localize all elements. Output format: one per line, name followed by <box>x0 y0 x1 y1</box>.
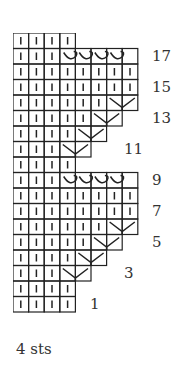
row-number-label: 17 <box>152 47 171 65</box>
row-number-label: 1 <box>90 295 100 313</box>
row-number-label: 7 <box>152 202 162 220</box>
row-number-label: 13 <box>152 109 171 127</box>
row-number-label: 5 <box>152 233 162 251</box>
row-number-label: 9 <box>152 171 162 189</box>
row-number-label: 15 <box>152 78 171 96</box>
row-number-label: 3 <box>124 264 134 282</box>
stitch-count-label: 4 sts <box>16 340 52 358</box>
row-number-label: 11 <box>124 140 143 158</box>
